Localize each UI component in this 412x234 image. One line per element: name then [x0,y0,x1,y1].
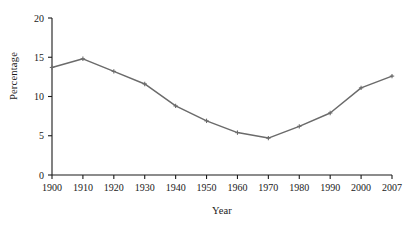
data-point [235,130,239,134]
y-tick-label: 10 [34,91,44,102]
y-tick-label: 0 [39,170,44,181]
x-tick-label: 1930 [135,182,155,193]
data-point [50,65,54,69]
y-tick-label: 5 [39,130,44,141]
y-tick-label: 20 [34,13,44,24]
plot-area: 05101520 1900191019201930194019501960197… [0,0,412,234]
x-tick-label: 1960 [227,182,247,193]
data-point [390,74,394,78]
x-tick-label: 2000 [351,182,371,193]
x-tick-group [52,175,392,179]
data-point [266,136,270,140]
x-tick-label: 1900 [42,182,62,193]
x-tick-label: 2007 [382,182,402,193]
x-tick-label: 1910 [73,182,93,193]
x-tick-label: 1950 [197,182,217,193]
data-point [112,69,116,73]
data-point [81,57,85,61]
series-marker-group [50,57,394,141]
line-chart: Percentage 05101520 19001910192019301940… [0,0,412,234]
x-tick-label: 1920 [104,182,124,193]
y-tick-label: 15 [34,52,44,63]
y-tick-group [48,18,52,175]
x-tick-label-group: 1900191019201930194019501960197019801990… [42,182,402,193]
x-tick-label: 1980 [289,182,309,193]
series-line-percentage [52,59,392,138]
x-tick-label: 1970 [258,182,278,193]
x-axis-title: Year [52,205,392,216]
data-point [297,124,301,128]
x-tick-label: 1940 [166,182,186,193]
y-tick-label-group: 05101520 [34,13,44,181]
x-tick-label: 1990 [320,182,340,193]
